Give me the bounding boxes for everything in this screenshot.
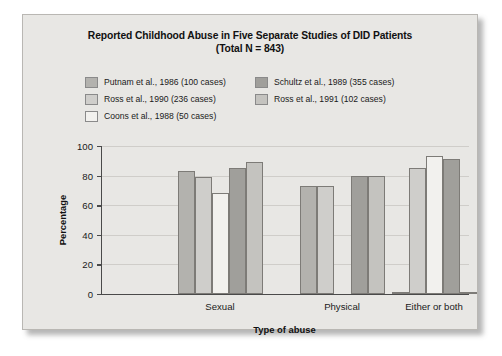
legend-label: Putnam et al., 1986 (100 cases)	[104, 77, 226, 87]
y-tick-label: 20	[82, 259, 93, 270]
legend-column-right: Schultz et al., 1989 (355 cases)Ross et …	[255, 74, 394, 108]
bar[interactable]	[246, 162, 263, 294]
legend-color-swatch-icon	[255, 77, 268, 88]
chart-figure-frame: Reported Childhood Abuse in Five Separat…	[22, 14, 478, 330]
y-tick-label: 80	[82, 170, 93, 181]
legend-column-left: Putnam et al., 1986 (100 cases)Ross et a…	[85, 74, 226, 125]
legend-color-swatch-icon	[255, 94, 268, 105]
bar-group: Either or both	[389, 146, 479, 294]
x-tick-label: Sexual	[150, 301, 290, 312]
bar[interactable]	[317, 186, 334, 294]
legend-color-swatch-icon	[85, 94, 98, 105]
legend-entry[interactable]: Coons et al., 1988 (50 cases)	[85, 108, 226, 124]
y-axis-title: Percentage	[57, 146, 71, 294]
bar[interactable]	[392, 292, 409, 294]
bar[interactable]	[409, 168, 426, 294]
y-tick-label: 60	[82, 200, 93, 211]
y-tick-label: 0	[88, 289, 93, 300]
y-tick-label: 100	[77, 141, 93, 152]
legend-entry[interactable]: Ross et al., 1990 (236 cases)	[85, 91, 226, 107]
y-tick-label: 40	[82, 229, 93, 240]
bar-group: Sexual	[175, 146, 265, 294]
bar[interactable]	[212, 193, 229, 294]
x-axis-title: Type of abuse	[101, 324, 468, 335]
bar[interactable]	[443, 159, 460, 294]
y-tick-mark	[97, 264, 102, 265]
chart-title-line-2: (Total N = 843)	[23, 42, 477, 55]
y-tick-mark	[97, 146, 102, 147]
legend-color-swatch-icon	[85, 77, 98, 88]
legend-color-swatch-icon	[85, 111, 98, 122]
legend-label: Schultz et al., 1989 (355 cases)	[274, 77, 394, 87]
chart-title: Reported Childhood Abuse in Five Separat…	[23, 29, 477, 55]
legend-entry[interactable]: Schultz et al., 1989 (355 cases)	[255, 74, 394, 90]
bar[interactable]	[368, 176, 385, 294]
legend-label: Ross et al., 1990 (236 cases)	[104, 94, 216, 104]
chart-title-line-1: Reported Childhood Abuse in Five Separat…	[23, 29, 477, 42]
bar[interactable]	[460, 292, 477, 294]
plot-area: 020406080100SexualPhysicalEither or both	[101, 146, 469, 295]
legend-entry[interactable]: Putnam et al., 1986 (100 cases)	[85, 74, 226, 90]
y-tick-mark	[97, 235, 102, 236]
legend-label: Ross et al., 1991 (102 cases)	[274, 94, 386, 104]
legend-label: Coons et al., 1988 (50 cases)	[104, 111, 216, 121]
y-tick-mark	[97, 176, 102, 177]
bar[interactable]	[426, 156, 443, 294]
bar[interactable]	[300, 186, 317, 294]
bar[interactable]	[351, 176, 368, 294]
chart-legend: Putnam et al., 1986 (100 cases)Ross et a…	[85, 74, 435, 124]
legend-entry[interactable]: Ross et al., 1991 (102 cases)	[255, 91, 394, 107]
bar[interactable]	[229, 168, 246, 294]
bar[interactable]	[195, 177, 212, 294]
y-tick-mark	[97, 205, 102, 206]
y-tick-mark	[97, 294, 102, 295]
bar[interactable]	[178, 171, 195, 294]
bar-group: Physical	[297, 146, 387, 294]
x-tick-label: Either or both	[364, 301, 502, 312]
